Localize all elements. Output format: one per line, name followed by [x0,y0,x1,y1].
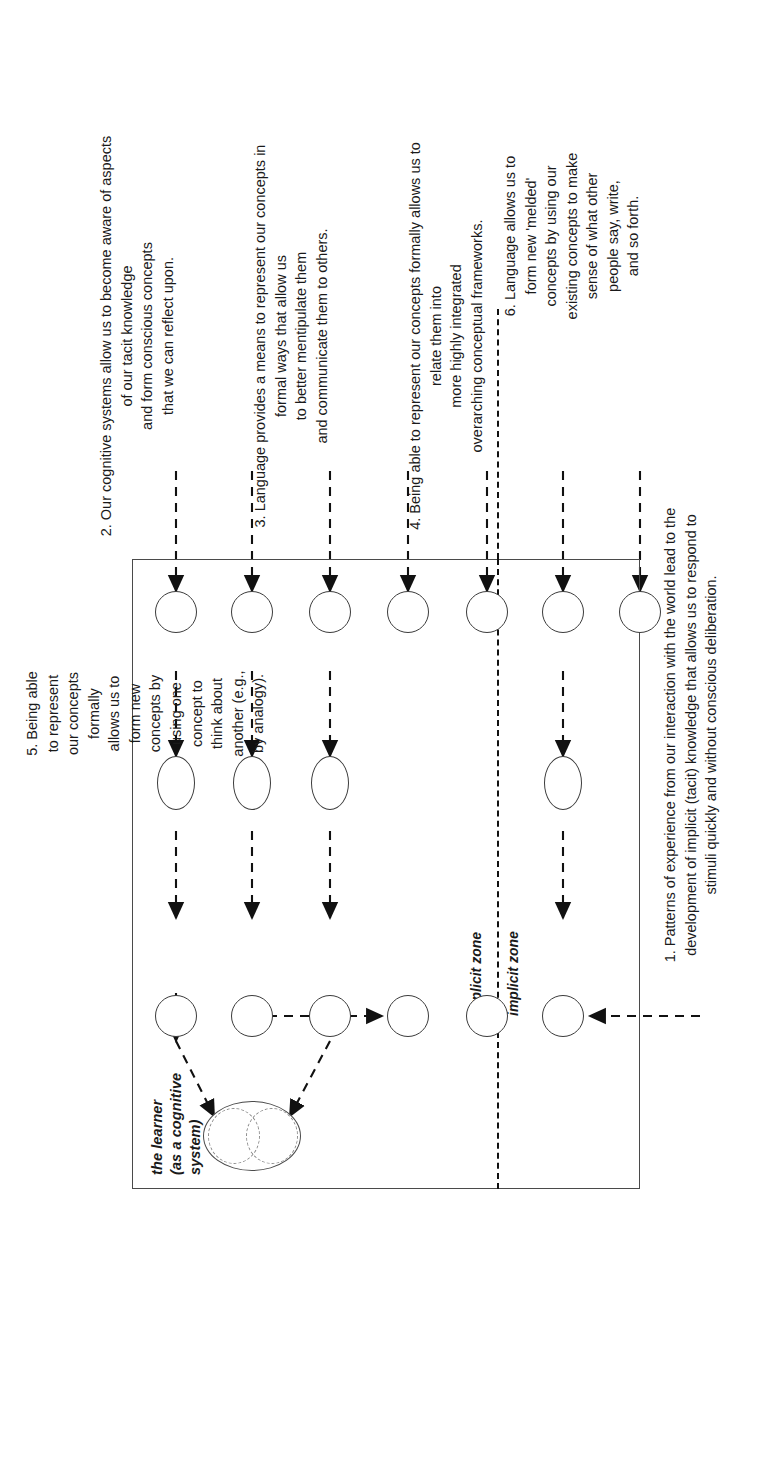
implicit-node [466,591,508,633]
note-6: 6. Language allows us to form new 'melde… [500,121,644,351]
melded-concept-group [203,1101,301,1171]
cognitive-system-diagram: the learner (as a cognitive system) expl… [0,0,783,1471]
implicit-node [309,591,351,633]
explicit-concept-node [311,756,349,810]
formal-concept-node [466,995,508,1037]
note-2: 2. Our cognitive systems allow us to bec… [96,101,178,571]
note-3: 3. Language provides a means to represen… [250,101,332,571]
implicit-zone-label: implicit zone [505,931,521,1016]
note-4: 4. Being able to represent our concepts … [405,101,487,571]
implicit-node [387,591,429,633]
implicit-node [542,591,584,633]
zone-divider-line-extension [497,309,499,559]
melded-inner-circle [246,1108,298,1164]
explicit-concept-node [544,756,582,810]
formal-concept-node [309,995,351,1037]
implicit-node [619,591,661,633]
learner-box-label: the learner (as a cognitive system) [148,1073,205,1175]
zone-divider-line [497,559,499,1189]
note-1: 1. Patterns of experience from our inter… [660,295,722,1175]
formal-concept-node [542,995,584,1037]
formal-concept-node [231,995,273,1037]
figure-rotator: the learner (as a cognitive system) expl… [0,0,783,1471]
formal-concept-node-analogy [387,995,429,1037]
formal-concept-node [155,995,197,1037]
note-5: 5. Being able to represent our concepts … [22,626,269,801]
